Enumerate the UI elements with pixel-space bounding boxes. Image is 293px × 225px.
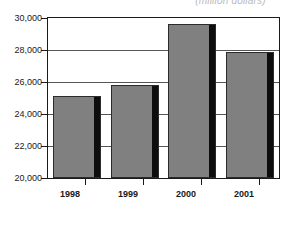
x-tick-label-2000: 2000 bbox=[160, 189, 212, 199]
bar-2000[interactable] bbox=[168, 24, 216, 178]
x-tick-label-1999: 1999 bbox=[102, 189, 154, 199]
bar-shadow bbox=[94, 96, 101, 178]
x-tick-mark bbox=[143, 179, 144, 185]
x-tick-mark bbox=[201, 179, 202, 185]
y-tick-label: 26,000 bbox=[0, 78, 42, 87]
bar-shadow bbox=[209, 24, 216, 178]
bar-shadow bbox=[152, 85, 159, 178]
x-tick-label-2001: 2001 bbox=[218, 189, 270, 199]
y-tick-label: 24,000 bbox=[0, 110, 42, 119]
bar-shadow bbox=[267, 52, 274, 178]
y-tick-label: 30,000 bbox=[0, 14, 42, 23]
x-tick-label-1998: 1998 bbox=[44, 189, 96, 199]
x-tick-mark bbox=[85, 179, 86, 185]
y-tick-label: 22,000 bbox=[0, 142, 42, 151]
bar-1999[interactable] bbox=[111, 85, 159, 178]
x-tick-mark bbox=[259, 179, 260, 185]
bar-1998[interactable] bbox=[53, 96, 101, 178]
y-tick-label: 20,000 bbox=[0, 174, 42, 183]
y-tick-label: 28,000 bbox=[0, 46, 42, 55]
gridline bbox=[48, 50, 279, 51]
plot-area bbox=[47, 17, 280, 179]
bar-2001[interactable] bbox=[226, 52, 274, 178]
bar-chart: (million dollars) 30,000 28,000 26,000 2… bbox=[0, 0, 293, 225]
chart-title: (million dollars) bbox=[168, 0, 293, 6]
